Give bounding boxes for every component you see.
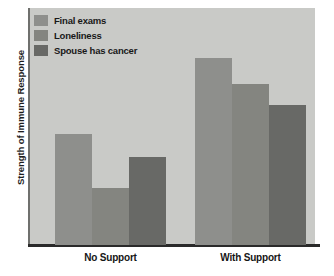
legend-item-label: Final exams [54, 15, 106, 26]
chart-legend: Final examsLonelinessSpouse has cancer [34, 13, 164, 58]
bar [269, 105, 306, 245]
y-axis-title: Strength of Immune Response [15, 18, 26, 218]
bar [92, 188, 129, 245]
legend-item-label: Loneliness [54, 30, 102, 41]
immune-response-bar-chart: Strength of Immune Response Final examsL… [0, 0, 334, 276]
legend-item: Final exams [34, 13, 164, 28]
legend-item: Loneliness [34, 28, 164, 43]
x-axis-label-no-support: No Support [51, 252, 171, 263]
bar [129, 157, 166, 245]
legend-swatch-icon [34, 45, 48, 56]
bar [195, 58, 232, 245]
legend-item-label: Spouse has cancer [54, 45, 137, 56]
legend-swatch-icon [34, 30, 48, 41]
bar [232, 84, 269, 245]
x-axis-label-with-support: With Support [191, 252, 311, 263]
legend-item: Spouse has cancer [34, 43, 164, 58]
bar [55, 134, 92, 245]
legend-swatch-icon [34, 15, 48, 26]
